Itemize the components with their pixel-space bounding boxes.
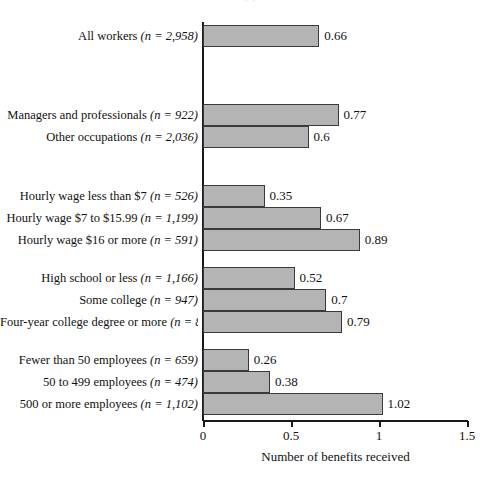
category-label: Managers and professionals (n = 922) — [0, 104, 198, 126]
bar-value-label: 0.35 — [270, 188, 293, 204]
x-axis-tick-label: 1.5 — [447, 428, 485, 444]
bar-row: 0.6 — [203, 126, 467, 148]
category-label: Hourly wage less than $7 (n = 526) — [0, 185, 198, 207]
bar — [203, 25, 319, 47]
category-sample-size: (n = 947) — [150, 293, 198, 307]
x-axis-tick — [379, 421, 381, 427]
x-axis-tick-label: 0.5 — [271, 428, 311, 444]
bar — [203, 393, 383, 415]
category-label-text: 50 to 499 employees — [43, 375, 150, 389]
x-axis-tick — [291, 421, 293, 427]
bar — [203, 229, 360, 251]
bar-row: 0.77 — [203, 104, 467, 126]
bar-row: 0.26 — [203, 349, 467, 371]
bar-value-label: 0.52 — [300, 270, 323, 286]
bar-value-label: 0.67 — [326, 210, 349, 226]
bar — [203, 289, 326, 311]
x-axis-tick-label: 1 — [359, 428, 399, 444]
category-label: All workers (n = 2,958) — [0, 25, 198, 47]
category-label: Other occupations (n = 2,036) — [0, 126, 198, 148]
bar-value-label: 0.7 — [331, 292, 347, 308]
bar-row: 0.66 — [203, 25, 467, 47]
bar — [203, 371, 270, 393]
category-sample-size: (n = 591) — [150, 233, 198, 247]
category-sample-size: (n = 922) — [150, 108, 198, 122]
bar-value-label: 0.38 — [275, 374, 298, 390]
bar-row: 1.02 — [203, 393, 467, 415]
category-label-text: Fewer than 50 employees — [19, 353, 150, 367]
bar — [203, 311, 342, 333]
category-label: High school or less (n = 1,166) — [0, 267, 198, 289]
category-sample-size: (n = 1,102) — [141, 397, 198, 411]
x-axis-tick — [467, 421, 469, 427]
category-sample-size: (n = 659) — [150, 353, 198, 367]
category-sample-size: (n = 474) — [150, 375, 198, 389]
category-sample-size: (n = 2,958) — [141, 29, 198, 43]
bar — [203, 185, 265, 207]
bar-value-label: 0.89 — [365, 232, 388, 248]
bar-value-label: 0.6 — [314, 129, 330, 145]
category-label-text: Managers and professionals — [7, 108, 150, 122]
category-label: Hourly wage $7 to $15.99 (n = 1,199) — [0, 207, 198, 229]
category-label-text: Some college — [79, 293, 150, 307]
category-sample-size: (n = 834) — [170, 315, 198, 329]
category-label: 50 to 499 employees (n = 474) — [0, 371, 198, 393]
bar-row: 0.35 — [203, 185, 467, 207]
bar-row: 0.52 — [203, 267, 467, 289]
bar-value-label: 0.26 — [254, 352, 277, 368]
clipped-chart-title: ( ) — [185, 0, 315, 1]
category-sample-size: (n = 1,199) — [141, 211, 198, 225]
bar — [203, 104, 339, 126]
bar-row: 0.89 — [203, 229, 467, 251]
category-label-text: 500 or more employees — [20, 397, 141, 411]
bar — [203, 126, 309, 148]
bar-row: 0.38 — [203, 371, 467, 393]
bar-row: 0.67 — [203, 207, 467, 229]
category-label-text: Hourly wage $7 to $15.99 — [7, 211, 141, 225]
bar-value-label: 0.79 — [347, 314, 370, 330]
category-label: Fewer than 50 employees (n = 659) — [0, 349, 198, 371]
category-label: Some college (n = 947) — [0, 289, 198, 311]
category-sample-size: (n = 2,036) — [141, 130, 198, 144]
category-label-text: Other occupations — [46, 130, 140, 144]
bar-row: 0.79 — [203, 311, 467, 333]
bar — [203, 349, 249, 371]
category-label-text: Four-year college degree or more — [0, 315, 170, 329]
category-sample-size: (n = 1,166) — [141, 271, 198, 285]
x-axis-tick-label: 0 — [183, 428, 223, 444]
category-label: Hourly wage $16 or more (n = 591) — [0, 229, 198, 251]
bar-row: 0.7 — [203, 289, 467, 311]
x-axis-title: Number of benefits received — [203, 449, 468, 465]
x-axis-tick — [203, 421, 205, 427]
bar-value-label: 0.77 — [344, 107, 367, 123]
bar — [203, 207, 321, 229]
category-label-text: High school or less — [41, 271, 140, 285]
bar-chart: ( ) 0.660.770.60.350.670.890.520.70.790.… — [0, 0, 485, 477]
category-label: 500 or more employees (n = 1,102) — [0, 393, 198, 415]
category-label-text: Hourly wage $16 or more — [18, 233, 150, 247]
x-axis-line — [203, 420, 468, 422]
bar-value-label: 0.66 — [324, 28, 347, 44]
category-sample-size: (n = 526) — [150, 189, 198, 203]
category-label-text: Hourly wage less than $7 — [20, 189, 150, 203]
category-label-text: All workers — [78, 29, 141, 43]
bar — [203, 267, 295, 289]
category-label: Four-year college degree or more (n = 83… — [0, 311, 198, 333]
bar-value-label: 1.02 — [388, 396, 411, 412]
